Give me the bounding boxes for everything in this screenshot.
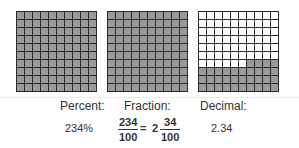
grid-cell [255,60,262,67]
grid-cell [263,68,270,75]
grid-cell [49,84,56,91]
grid-cell [73,36,80,43]
grid-cell [132,52,139,59]
grid-cell [57,84,64,91]
grid-cell [156,60,163,67]
grid-cell [116,52,123,59]
grid-cell [140,12,147,19]
grid-cell [33,76,40,83]
divider-line [0,97,299,98]
grid-cell [215,84,222,91]
grid-cell [116,76,123,83]
grid-cell [65,68,72,75]
grid-cell [41,76,48,83]
mixed-denominator: 100 [160,131,180,143]
grid-cell [231,44,238,51]
grid-cell [239,36,246,43]
grid-cell [33,12,40,19]
grid-cell [247,60,254,67]
grid-cell [164,20,171,27]
grid-cell [223,20,230,27]
grid-cell [81,36,88,43]
grid-cell [223,52,230,59]
grid-cell [223,28,230,35]
grid-cell [223,84,230,91]
grid-cell [25,36,32,43]
grid-cell [239,60,246,67]
hundred-grid-2-fully-shaded [107,11,188,92]
grid-cell [49,52,56,59]
grid-cell [207,36,214,43]
grid-cell [215,44,222,51]
grid-cell [207,44,214,51]
grid-cell [57,12,64,19]
grid-cell [17,28,24,35]
grid-cell [89,60,96,67]
grid-cell [247,44,254,51]
grid-cell [199,52,206,59]
hundred-grid-3-partially-shaded [198,11,279,92]
grid-cell [271,44,278,51]
improper-fraction: 234 100 [118,116,138,143]
grid-cell [180,52,187,59]
grid-cell [65,12,72,19]
grid-cell [239,12,246,19]
grid-cell [17,68,24,75]
grid-cell [89,12,96,19]
grid-cell [255,84,262,91]
grid-cell [89,84,96,91]
grid-cell [231,52,238,59]
improper-numerator: 234 [118,116,138,128]
grid-cell [124,12,131,19]
grid-cell [124,20,131,27]
grid-cell [108,12,115,19]
grid-cell [215,52,222,59]
grid-cell [89,68,96,75]
grid-cell [247,20,254,27]
grid-cell [180,68,187,75]
grid-cell [271,52,278,59]
grid-cell [65,76,72,83]
grid-cell [81,20,88,27]
grid-cell [25,20,32,27]
grid-cell [255,76,262,83]
grid-cell [223,76,230,83]
grid-cell [108,44,115,51]
grid-cell [116,20,123,27]
percent-label: Percent: [60,99,105,113]
grid-cell [223,68,230,75]
grid-cell [172,76,179,83]
grid-cell [199,36,206,43]
grid-cell [124,68,131,75]
grid-cell [25,44,32,51]
grid-cell [156,20,163,27]
grid-cell [41,52,48,59]
grid-cell [89,36,96,43]
grid-cell [239,20,246,27]
grid-cell [49,60,56,67]
grid-cell [57,60,64,67]
grid-cell [247,28,254,35]
grid-cell [57,52,64,59]
grid-cell [33,68,40,75]
grid-cell [65,20,72,27]
grid-cell [247,12,254,19]
grid-cell [156,12,163,19]
grid-cell [57,20,64,27]
grid-cell [207,68,214,75]
grid-cell [215,28,222,35]
grid-cell [33,84,40,91]
grid-cell [172,68,179,75]
grid-cell [156,36,163,43]
grid-cell [17,52,24,59]
grid-cell [148,60,155,67]
grid-cell [81,28,88,35]
grid-cell [271,76,278,83]
grid-cell [33,28,40,35]
grid-cell [148,68,155,75]
grid-cell [215,76,222,83]
grid-cell [81,44,88,51]
grid-cell [140,44,147,51]
grid-cell [132,84,139,91]
grid-cell [156,44,163,51]
